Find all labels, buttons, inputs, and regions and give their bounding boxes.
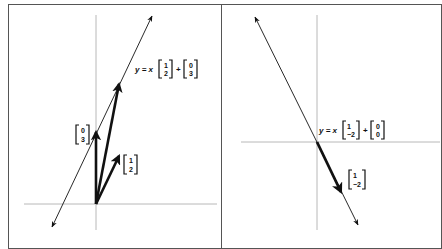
- left-panel-frame: [9, 5, 222, 249]
- left-equation-offset-matrix: 0 3: [184, 60, 197, 78]
- left-panel: y = x 1 2 + 0 3 0 3 1: [24, 15, 217, 230]
- left-solution-line: [52, 16, 152, 227]
- left-equation-label: y = x 1 2 + 0 3: [134, 60, 197, 78]
- left-direction-vector-label: 1 2: [124, 155, 137, 174]
- svg-text:1: 1: [164, 62, 168, 69]
- svg-text:−2: −2: [347, 131, 355, 138]
- left-equation-direction-matrix: 1 2: [159, 60, 172, 78]
- left-offset-vector-label: 0 3: [76, 125, 89, 144]
- svg-text:1: 1: [347, 123, 351, 130]
- svg-text:0: 0: [376, 131, 380, 138]
- svg-text:0: 0: [376, 123, 380, 130]
- right-vector-direction: [317, 142, 341, 192]
- left-equation-prefix: y = x: [134, 65, 154, 74]
- svg-text:3: 3: [81, 136, 85, 143]
- svg-text:0: 0: [189, 62, 193, 69]
- right-direction-vector-label: 1 −2: [349, 170, 365, 189]
- svg-text:1: 1: [353, 172, 357, 179]
- right-equation-direction-matrix: 1 −2: [343, 121, 359, 139]
- svg-text:0: 0: [81, 127, 85, 134]
- svg-text:2: 2: [129, 166, 133, 173]
- left-vector-sum: [96, 84, 119, 204]
- vector-line-diagram: y = x 1 2 + 0 3 0 3 1: [0, 0, 442, 249]
- svg-text:3: 3: [189, 70, 193, 77]
- right-equation-offset-matrix: 0 0: [371, 121, 384, 139]
- right-equation-prefix: y = x: [318, 126, 338, 135]
- left-equation-plus: +: [176, 65, 181, 74]
- svg-text:1: 1: [129, 157, 133, 164]
- right-equation-plus: +: [363, 126, 368, 135]
- svg-text:−2: −2: [353, 181, 361, 188]
- svg-text:2: 2: [164, 70, 168, 77]
- right-equation-label: y = x 1 −2 + 0 0: [318, 121, 384, 139]
- right-panel: y = x 1 −2 + 0 0 1 −2: [241, 15, 440, 230]
